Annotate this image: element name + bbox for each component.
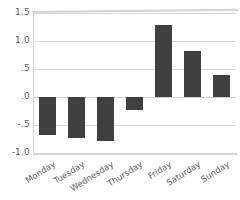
- gridline: [33, 41, 236, 42]
- x-axis-tick-labels: MondayTuesdayWednesdayThursdayFridaySatu…: [33, 153, 236, 200]
- bar: [155, 25, 172, 97]
- y-tick-label: 1.0: [2, 36, 30, 45]
- y-tick-label: .0: [2, 92, 30, 101]
- bar: [213, 75, 230, 97]
- plot-area: [33, 13, 236, 153]
- bar: [184, 51, 201, 97]
- bar: [68, 97, 85, 138]
- bar: [39, 97, 56, 135]
- bar-chart-figure: 1.51.0.5.0-.5-1.0 MondayTuesdayWednesday…: [0, 0, 240, 200]
- y-tick-label: -.5: [2, 120, 30, 129]
- y-tick-label: .5: [2, 64, 30, 73]
- y-tick-label: 1.5: [2, 8, 30, 17]
- gridline: [33, 125, 236, 126]
- gridline: [33, 69, 236, 70]
- bar: [97, 97, 114, 141]
- y-tick-label: -1.0: [2, 148, 30, 157]
- bar: [126, 97, 143, 110]
- y-axis-tick-labels: 1.51.0.5.0-.5-1.0: [0, 0, 30, 200]
- gridline: [33, 13, 236, 14]
